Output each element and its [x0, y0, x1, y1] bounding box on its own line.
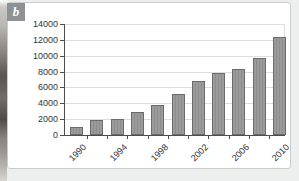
y-tick-label: 4000	[12, 98, 58, 108]
x-axis-tick	[168, 136, 169, 139]
x-tick-label: 2002	[189, 142, 210, 163]
bar	[131, 112, 144, 135]
x-axis-tick	[107, 136, 108, 139]
bar	[212, 73, 225, 135]
bar	[111, 119, 124, 135]
bar	[253, 58, 266, 135]
adjacent-photo-edge	[0, 0, 7, 181]
bar	[151, 105, 164, 135]
bar	[172, 94, 185, 135]
x-axis-tick	[269, 136, 270, 139]
y-tick-label: 2000	[12, 114, 58, 124]
y-tick-label: 8000	[12, 67, 58, 77]
bar	[70, 127, 83, 135]
x-axis-tick	[148, 136, 149, 139]
x-axis-tick	[87, 136, 88, 139]
y-tick-label: 10000	[12, 51, 58, 61]
y-tick-label: 12000	[12, 35, 58, 45]
y-axis-line	[64, 24, 65, 136]
x-tick-label: 2010	[270, 142, 291, 163]
bar-chart: 0200040006000800010000120001400019901994…	[8, 3, 292, 170]
panel-label-badge: b	[7, 3, 25, 21]
bar	[192, 81, 205, 135]
gridline	[64, 24, 284, 25]
y-tick-label: 6000	[12, 82, 58, 92]
bar	[273, 37, 286, 135]
x-tick-label: 1994	[108, 142, 129, 163]
bar	[232, 69, 245, 135]
gridline	[64, 72, 284, 73]
x-axis-tick	[188, 136, 189, 139]
y-tick-label: 0	[12, 130, 58, 140]
x-axis-line	[64, 135, 285, 136]
x-tick-label: 2006	[230, 142, 251, 163]
x-axis-tick	[127, 136, 128, 139]
x-tick-label: 1990	[67, 142, 88, 163]
gridline	[64, 87, 284, 88]
figure-panel: 0200040006000800010000120001400019901994…	[7, 2, 291, 169]
x-tick-label: 1998	[149, 142, 170, 163]
x-axis-tick	[229, 136, 230, 139]
panel-label-text: b	[13, 4, 20, 20]
gridline	[64, 56, 284, 57]
bar	[90, 120, 103, 135]
x-axis-tick	[208, 136, 209, 139]
gridline	[64, 40, 284, 41]
x-axis-tick	[249, 136, 250, 139]
